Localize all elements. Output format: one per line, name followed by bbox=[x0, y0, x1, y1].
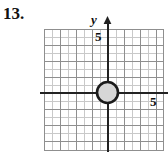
y-axis-tick-label-5: 5 bbox=[95, 30, 102, 43]
y-axis-label: y bbox=[91, 13, 97, 26]
y-axis-arrowhead bbox=[104, 16, 112, 24]
grid-lines bbox=[44, 29, 164, 151]
x-axis-tick-label-5: 5 bbox=[150, 95, 157, 108]
problem-number-label: 13. bbox=[3, 4, 24, 24]
coordinate-grid-plot bbox=[44, 29, 164, 151]
worksheet-problem-figure: 13. bbox=[0, 0, 168, 158]
